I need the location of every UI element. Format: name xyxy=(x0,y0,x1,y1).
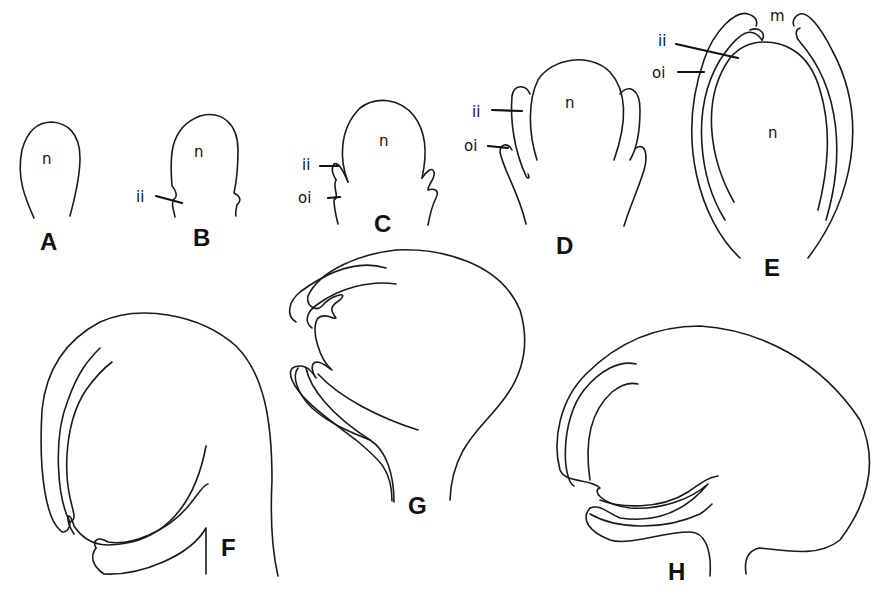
ovule-body-outline xyxy=(290,250,524,501)
ii-pointer xyxy=(676,44,738,58)
upper-integument-inner xyxy=(307,283,396,328)
outer-integument-dorsal xyxy=(41,313,278,576)
label-ii: ii xyxy=(302,156,310,174)
outer-integument-inner-edge xyxy=(58,348,100,532)
label-m: m xyxy=(770,7,785,25)
panel-f: F xyxy=(41,313,278,576)
outer-integument-right xyxy=(624,147,646,226)
upper-integument-outer xyxy=(565,363,636,486)
panel-g: G xyxy=(290,250,525,519)
nucellus-body-outline xyxy=(68,446,206,545)
label-n: n xyxy=(768,124,778,142)
panel-label-f: F xyxy=(221,534,236,561)
panel-label-h: H xyxy=(668,558,685,585)
oi-pointer xyxy=(328,197,340,198)
inner-integument-left xyxy=(512,87,530,178)
panel-b: ii n B xyxy=(136,115,240,251)
nucellus-outline xyxy=(530,60,623,160)
panel-h: H xyxy=(557,326,869,585)
nucellus-outline xyxy=(20,122,80,218)
nucellus-outline xyxy=(171,115,240,217)
upper-integument-outer xyxy=(290,265,386,322)
panel-label-e: E xyxy=(764,254,780,281)
lower-integument-inner xyxy=(306,368,370,440)
label-ii: ii xyxy=(472,103,480,121)
integuments-right xyxy=(422,170,437,225)
panel-e: m ii oi n E xyxy=(652,7,853,281)
panel-d: ii oi n D xyxy=(464,60,646,259)
upper-integument-inner xyxy=(588,383,638,480)
label-ii: ii xyxy=(658,32,666,50)
ii-pointer xyxy=(156,196,182,203)
ii-pointer xyxy=(492,110,522,111)
label-n: n xyxy=(42,150,52,168)
panel-label-b: B xyxy=(193,224,210,251)
panel-label-c: C xyxy=(374,210,391,237)
panel-a: n A xyxy=(20,122,80,255)
label-oi: oi xyxy=(464,137,477,155)
lower-integument-outer xyxy=(295,368,394,502)
inner-integument-left-outer-edge xyxy=(701,32,762,220)
ovule-body-outline xyxy=(557,326,869,576)
panel-label-g: G xyxy=(408,492,427,519)
panel-label-a: A xyxy=(40,228,57,255)
label-ii: ii xyxy=(136,188,144,206)
label-n: n xyxy=(565,94,575,112)
label-oi: oi xyxy=(652,64,665,82)
label-oi: oi xyxy=(298,189,311,207)
label-n: n xyxy=(194,143,204,161)
outer-integument-left xyxy=(334,180,338,224)
outer-integument-left xyxy=(500,145,526,224)
ovule-development-figure: n A ii n B ii oi n C ii oi n D xyxy=(0,0,887,596)
panel-c: ii oi n C xyxy=(298,100,437,237)
label-n: n xyxy=(379,132,389,150)
oi-pointer xyxy=(488,146,508,148)
panel-label-d: D xyxy=(556,232,573,259)
outer-integument-right xyxy=(793,14,852,258)
